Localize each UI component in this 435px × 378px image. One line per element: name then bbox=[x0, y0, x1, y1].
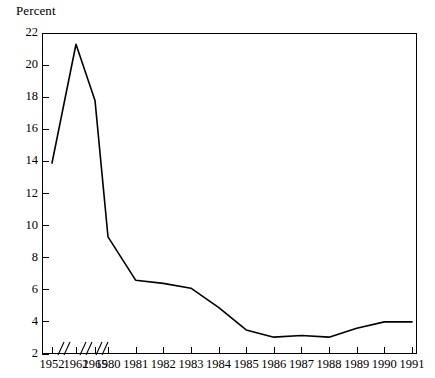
data-line-layer bbox=[0, 0, 435, 378]
data-series-line bbox=[52, 44, 412, 337]
chart-page: Percent 246810121416182022 1952196219651… bbox=[0, 0, 435, 378]
